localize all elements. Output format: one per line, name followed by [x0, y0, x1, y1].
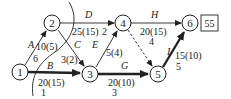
edge-B-time: 1 — [41, 87, 46, 98]
edge-H-name: H — [150, 9, 159, 20]
node-6: 6 — [182, 15, 198, 31]
node-1: 1 — [12, 64, 28, 80]
edge-I-time: 5 — [176, 61, 181, 72]
edge-D-time: 2 — [102, 26, 107, 37]
edge-D-name: D — [84, 9, 93, 20]
svg-text:2: 2 — [49, 17, 55, 29]
edge-E-name: E — [91, 39, 98, 50]
node-5: 5 — [150, 66, 166, 82]
node-3: 3 — [82, 66, 98, 82]
edge-D-cost: 25(15) — [72, 26, 99, 38]
edge-G-time: 3 — [112, 87, 117, 98]
edge-B — [28, 72, 80, 73]
edge-H-time: 4 — [149, 36, 154, 47]
svg-text:4: 4 — [120, 17, 126, 29]
total-value: 55 — [205, 18, 215, 29]
edge-A-cost: 10(5) — [36, 41, 58, 53]
node-4: 4 — [115, 15, 131, 31]
edge-C-name: C — [74, 39, 81, 50]
edge-I-name: I — [166, 46, 171, 57]
svg-text:5: 5 — [155, 68, 161, 80]
edge-A-name: A — [27, 39, 35, 50]
svg-text:3: 3 — [87, 68, 93, 80]
edge-E-cost: 5(4) — [106, 47, 123, 59]
edge-B-name: B — [47, 60, 53, 71]
edge-A-time: 6 — [33, 53, 38, 64]
edge-G-name: G — [121, 60, 128, 71]
node-2: 2 — [44, 15, 60, 31]
svg-text:1: 1 — [17, 66, 23, 78]
network-diagram: 1 2 3 4 5 6 55 A 10(5) 6 B 20(15) 1 C 3(… — [0, 0, 231, 99]
edge-C-cost: 3(2) — [61, 54, 78, 66]
svg-text:6: 6 — [187, 17, 193, 29]
